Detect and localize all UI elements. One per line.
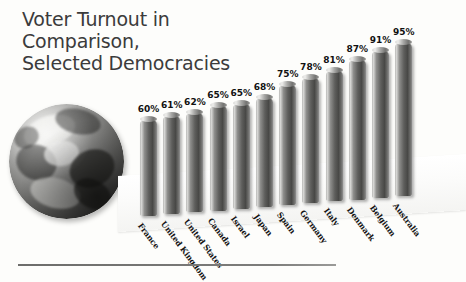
bar[interactable] xyxy=(326,70,343,201)
bar-group: 65%Canada xyxy=(210,105,227,210)
bar-group: 78%Germany xyxy=(302,77,319,203)
bar-group: 81%Italy xyxy=(326,70,343,201)
bar-group: 62%United States xyxy=(186,112,203,212)
bar-value-label: 65% xyxy=(231,88,253,98)
bar-category-label: Spain xyxy=(275,210,298,236)
bar-category-label: Japan xyxy=(252,212,275,238)
bar[interactable] xyxy=(395,42,412,196)
bar-group: 60%France xyxy=(140,119,157,216)
bar-category-label: Israel xyxy=(229,214,252,240)
bar-group: 75%Spain xyxy=(279,84,296,206)
bar-group: 65%Israel xyxy=(233,103,250,208)
bottom-divider xyxy=(18,264,336,266)
bar-group: 61%United Kingdom xyxy=(163,115,180,214)
bar-value-label: 61% xyxy=(161,100,183,110)
bar[interactable] xyxy=(163,115,180,214)
bar[interactable] xyxy=(210,105,227,210)
bar[interactable] xyxy=(279,84,296,206)
bar[interactable] xyxy=(372,50,389,197)
bar-value-label: 78% xyxy=(300,62,322,72)
bar-category-label: France xyxy=(136,221,162,251)
bar-value-label: 62% xyxy=(184,97,206,107)
bar[interactable] xyxy=(140,119,157,216)
bar[interactable] xyxy=(233,103,250,208)
bar-value-label: 68% xyxy=(254,82,276,92)
bar-value-label: 81% xyxy=(323,55,345,65)
bar-category-label: Italy xyxy=(322,206,342,227)
bar-group: 87%Denmark xyxy=(349,59,366,200)
bar-value-label: 65% xyxy=(207,90,229,100)
bar[interactable] xyxy=(186,112,203,212)
bar-group: 91%Belgium xyxy=(372,50,389,197)
bar[interactable] xyxy=(349,59,366,200)
bar-group: 68%Japan xyxy=(256,97,273,207)
bar-value-label: 91% xyxy=(370,35,392,45)
bar-value-label: 75% xyxy=(277,69,299,79)
bar-value-label: 95% xyxy=(393,27,415,37)
bar-value-label: 87% xyxy=(347,44,369,54)
bar[interactable] xyxy=(256,97,273,207)
bar[interactable] xyxy=(302,77,319,203)
bar-value-label: 60% xyxy=(138,104,160,114)
bar-group: 95%Australia xyxy=(395,42,412,196)
